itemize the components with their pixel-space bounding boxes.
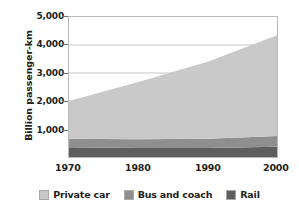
chart-figure: Billion passenger-km 5,000 4,000 3,000 2… bbox=[0, 0, 299, 216]
x-tick-label-1970: 1970 bbox=[55, 162, 81, 173]
legend-swatch-bus-and-coach bbox=[124, 190, 134, 200]
x-tick-label-1980: 1980 bbox=[125, 162, 151, 173]
x-tick-label-2000: 2000 bbox=[263, 162, 289, 173]
area-private-car bbox=[69, 35, 277, 139]
legend-swatch-rail bbox=[226, 190, 236, 200]
y-tick-label-5000: 5,000 bbox=[24, 12, 64, 21]
legend-item-rail: Rail bbox=[226, 189, 259, 200]
y-axis-tick-labels: 5,000 4,000 3,000 2,000 1,000 bbox=[24, 0, 64, 216]
legend-item-private-car: Private car bbox=[39, 189, 109, 200]
legend-label-private-car: Private car bbox=[53, 189, 109, 200]
x-tick-label-1990: 1990 bbox=[195, 162, 221, 173]
legend-item-bus-and-coach: Bus and coach bbox=[124, 189, 213, 200]
y-tick-label-2000: 2,000 bbox=[24, 97, 64, 106]
area-rail bbox=[69, 147, 277, 157]
legend-label-rail: Rail bbox=[240, 189, 259, 200]
plot-area bbox=[68, 16, 278, 158]
legend-swatch-private-car bbox=[39, 190, 49, 200]
stacked-area-plot bbox=[69, 17, 277, 157]
y-tick-label-1000: 1,000 bbox=[24, 126, 64, 135]
area-series-group bbox=[69, 35, 277, 157]
legend-label-bus-and-coach: Bus and coach bbox=[138, 189, 213, 200]
y-tick-label-4000: 4,000 bbox=[24, 40, 64, 49]
chart-legend: Private car Bus and coach Rail bbox=[0, 189, 299, 200]
y-tick-label-3000: 3,000 bbox=[24, 69, 64, 78]
